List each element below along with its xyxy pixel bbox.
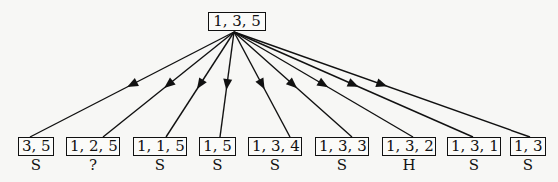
arrowhead-icon: [197, 77, 207, 89]
arrowhead-icon: [223, 78, 232, 89]
child-status-label: ?: [78, 157, 108, 173]
root-node: 1, 3, 5: [208, 12, 266, 31]
child-status-label: S: [459, 157, 489, 173]
child-node: 1, 3, 2: [382, 137, 436, 156]
child-status-label: S: [145, 157, 175, 173]
arrowhead-icon: [164, 78, 175, 88]
child-status-label: S: [327, 157, 357, 173]
child-node: 1, 3, 4: [248, 137, 302, 156]
child-status-label: S: [21, 157, 51, 173]
child-node: 1, 3, 1: [447, 137, 501, 156]
arrowhead-icon: [316, 78, 328, 87]
arrowhead-icon: [375, 78, 387, 86]
child-status-label: H: [394, 157, 424, 173]
child-status-label: S: [260, 157, 290, 173]
child-node: 1, 3, 3: [315, 137, 369, 156]
child-node: 1, 1, 5: [133, 137, 187, 156]
child-node: 1, 2, 5: [66, 137, 120, 156]
child-status-label: S: [203, 157, 233, 173]
child-node: 1, 5: [199, 137, 236, 156]
child-status-label: S: [513, 157, 543, 173]
arrowhead-icon: [347, 78, 359, 87]
child-node: 1, 3: [510, 137, 546, 156]
child-node: 3, 5: [18, 137, 54, 156]
